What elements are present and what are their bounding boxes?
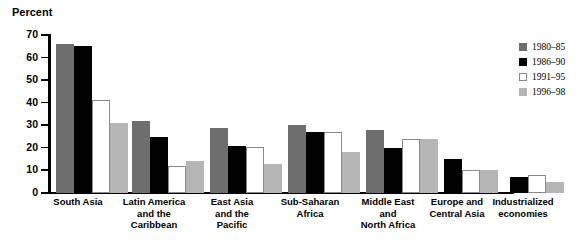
bar [384,148,402,193]
bar [324,132,342,193]
y-tick-60 [41,57,48,59]
y-tick-label-20: 20 [14,142,38,152]
bar [56,44,74,193]
category-label-line: Industrialized [479,196,567,208]
y-tick-40 [41,102,48,104]
y-tick-label-30: 30 [14,119,38,129]
y-tick-70 [41,34,48,36]
category-label-line: and the [110,208,198,220]
legend-swatch-1991-95-icon [519,73,527,81]
legend-label: 1991–95 [532,72,565,82]
bar-group [56,34,128,193]
bar [444,159,462,193]
bar [420,139,438,193]
legend-label: 1996–98 [532,87,565,97]
category-label-line: Caribbean [110,219,198,231]
category-label-line: and the [188,208,276,220]
bar-chart: Percent 706050403020100 South AsiaLatin … [0,0,586,249]
bar [228,146,246,193]
bar [510,177,528,193]
category-label-line: Pacific [188,219,276,231]
bar [306,132,324,193]
bar [546,182,564,193]
legend-item[interactable]: 1986–90 [519,55,585,69]
category-label: Latin Americaand theCaribbean [110,196,198,231]
category-label-line: Africa [266,208,354,220]
bar [402,139,420,193]
bar [462,170,480,193]
legend-item[interactable]: 1996–98 [519,85,585,99]
bar-group [366,34,438,193]
bar [74,46,92,193]
category-label-line: North Africa [344,219,432,231]
category-label: Industrializedeconomies [479,196,567,219]
bar [186,161,204,193]
y-tick-label-10: 10 [14,164,38,174]
bar [150,137,168,193]
bar-group [288,34,360,193]
bar-group [210,34,282,193]
legend-item[interactable]: 1980–85 [519,40,585,54]
bar [342,152,360,193]
bar [246,147,264,193]
y-tick-50 [41,79,48,81]
bar [288,125,306,193]
category-label-line: economies [479,208,567,220]
bar [210,128,228,193]
bar-group [132,34,204,193]
category-label: South Asia [34,196,122,208]
x-axis-category-labels: South AsiaLatin Americaand theCaribbeanE… [36,196,502,248]
category-label-line: East Asia [188,196,276,208]
legend-swatch-1986-90-icon [519,58,527,66]
legend-swatch-1996-98-icon [519,88,527,96]
bar [366,130,384,193]
category-label: East Asiaand thePacific [188,196,276,231]
y-tick-label-60: 60 [14,52,38,62]
bar [110,123,128,193]
y-tick-20 [41,147,48,149]
legend-item[interactable]: 1991–95 [519,70,585,84]
category-label-line: Sub-Saharan [266,196,354,208]
y-tick-10 [41,169,48,171]
y-axis-title: Percent [12,6,52,18]
plot-area: 706050403020100 [14,34,514,194]
y-tick-label-70: 70 [14,29,38,39]
category-label-line: Latin America [110,196,198,208]
category-label: Sub-SaharanAfrica [266,196,354,219]
bar [528,175,546,193]
chart-legend: 1980–851986–901991–951996–98 [519,40,585,100]
legend-swatch-1980-85-icon [519,43,527,51]
bar [92,100,110,193]
bar-groups [50,34,514,193]
y-tick-label-50: 50 [14,74,38,84]
bar [480,170,498,193]
bar-group [444,34,516,193]
y-tick-label-40: 40 [14,97,38,107]
y-tick-0 [41,192,48,194]
category-label-line: South Asia [34,196,122,208]
bar [168,166,186,193]
bar [264,164,282,193]
y-tick-30 [41,124,48,126]
legend-label: 1986–90 [532,57,565,67]
legend-label: 1980–85 [532,42,565,52]
bar [132,121,150,193]
